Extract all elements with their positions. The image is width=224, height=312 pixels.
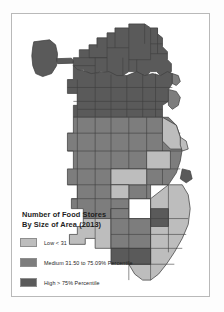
legend-title-line-1: Number of Food Stores [22, 210, 170, 220]
legend-title-line-2: By Size of Area (2013) [22, 220, 170, 230]
legend-title: Number of Food Stores By Size of Area (2… [22, 210, 170, 229]
region-west-light-notch [111, 185, 129, 199]
map-legend: Number of Food Stores By Size of Area (2… [20, 210, 170, 298]
legend-swatch-medium [20, 258, 37, 267]
legend-label-high: High > 75% Percentile [44, 280, 100, 286]
legend-label-medium: Medium 31.50 to 75.09% Percentile [44, 260, 133, 266]
legend-swatch-high [20, 278, 37, 287]
legend-item-high: High > 75% Percentile [20, 278, 170, 287]
legend-item-medium: Medium 31.50 to 75.09% Percentile [20, 258, 170, 267]
legend-swatch-low [20, 238, 37, 247]
legend-item-low: Low < 31 [20, 238, 170, 247]
legend-label-low: Low < 31 [44, 240, 67, 246]
figure-container: .rg { stroke: #3f3f3f; stroke-width: 0.7… [0, 0, 224, 312]
